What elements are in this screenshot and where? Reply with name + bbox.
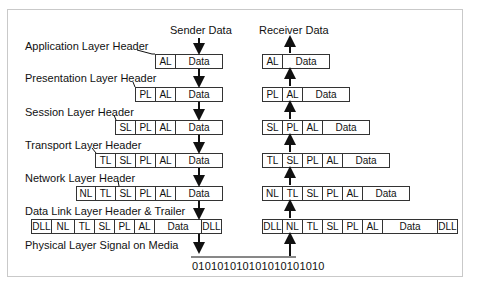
- arrows-overlay: [0, 0, 478, 292]
- signal-bits: 010101010101010101010: [192, 260, 325, 272]
- leader-lines: [92, 50, 155, 186]
